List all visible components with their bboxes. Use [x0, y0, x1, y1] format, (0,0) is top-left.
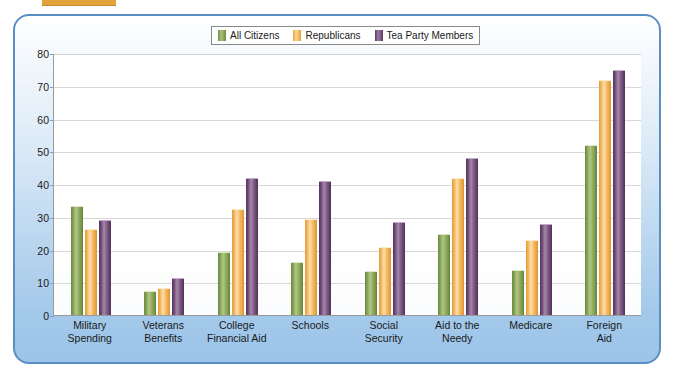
bar-tea-party-members[interactable]: [319, 181, 331, 315]
y-tick-label: 10: [37, 277, 49, 289]
bar-republicans[interactable]: [452, 178, 464, 315]
x-axis-label: CollegeFinancial Aid: [200, 319, 274, 344]
bar-republicans[interactable]: [305, 219, 317, 315]
y-tick-label: 20: [37, 245, 49, 257]
bar-group: [128, 54, 202, 315]
x-axis-label-line: Spending: [53, 332, 127, 345]
bar-republicans[interactable]: [379, 247, 391, 315]
x-axis-label: SocialSecurity: [347, 319, 421, 344]
x-axis-label-line: Schools: [274, 319, 348, 332]
y-tick-label: 80: [37, 48, 49, 60]
legend-item-all-citizens: All Citizens: [218, 30, 279, 41]
legend-swatch-purple-icon: [375, 30, 383, 41]
bar-all-citizens[interactable]: [365, 271, 377, 315]
y-tick-label: 50: [37, 146, 49, 158]
y-tick-label: 60: [37, 114, 49, 126]
x-axis-label: VeteransBenefits: [127, 319, 201, 344]
y-tick-mark: [50, 316, 54, 317]
bar-tea-party-members[interactable]: [99, 220, 111, 315]
bar-all-citizens[interactable]: [438, 234, 450, 315]
legend-label-all-citizens: All Citizens: [230, 31, 279, 41]
x-axis-label: ForeignAid: [568, 319, 642, 344]
bar-republicans[interactable]: [232, 209, 244, 315]
y-tick-label: 40: [37, 179, 49, 191]
bar-group: [569, 54, 643, 315]
legend-swatch-green-icon: [218, 30, 226, 41]
bars-layer: [54, 54, 641, 315]
x-axis-label: MilitarySpending: [53, 319, 127, 344]
bar-tea-party-members[interactable]: [466, 158, 478, 315]
x-axis-label-line: Veterans: [127, 319, 201, 332]
bar-tea-party-members[interactable]: [540, 224, 552, 315]
bar-tea-party-members[interactable]: [393, 222, 405, 315]
bar-all-citizens[interactable]: [218, 252, 230, 315]
x-axis-label-line: Needy: [421, 332, 495, 345]
bar-group: [275, 54, 349, 315]
bar-all-citizens[interactable]: [71, 206, 83, 315]
bar-group: [54, 54, 128, 315]
x-axis-label-line: Social: [347, 319, 421, 332]
x-axis-label-line: Military: [53, 319, 127, 332]
x-axis-label-line: Aid to the: [421, 319, 495, 332]
bar-tea-party-members[interactable]: [246, 178, 258, 315]
x-axis-label: Medicare: [494, 319, 568, 332]
bar-tea-party-members[interactable]: [172, 278, 184, 315]
y-tick-label: 30: [37, 212, 49, 224]
bar-group: [348, 54, 422, 315]
x-axis-label-line: Aid: [568, 332, 642, 345]
bar-group: [495, 54, 569, 315]
chart-legend: All Citizens Republicans Tea Party Membe…: [211, 26, 480, 45]
legend-label-tea-party-members: Tea Party Members: [387, 31, 474, 41]
bar-republicans[interactable]: [526, 240, 538, 315]
legend-swatch-orange-icon: [293, 30, 301, 41]
x-axis-label-line: Medicare: [494, 319, 568, 332]
bar-all-citizens[interactable]: [585, 145, 597, 315]
bar-all-citizens[interactable]: [512, 270, 524, 315]
gridline: [54, 54, 641, 55]
y-tick-label: 70: [37, 81, 49, 93]
bar-group: [422, 54, 496, 315]
bar-republicans[interactable]: [158, 288, 170, 315]
x-axis-label-line: Foreign: [568, 319, 642, 332]
bar-republicans[interactable]: [599, 80, 611, 315]
x-axis-label-line: College: [200, 319, 274, 332]
bar-republicans[interactable]: [85, 229, 97, 315]
legend-item-republicans: Republicans: [293, 30, 360, 41]
bar-all-citizens[interactable]: [144, 291, 156, 315]
legend-label-republicans: Republicans: [305, 31, 360, 41]
chart-figure-panel: All Citizens Republicans Tea Party Membe…: [13, 14, 661, 364]
bar-group: [201, 54, 275, 315]
legend-item-tea-party-members: Tea Party Members: [375, 30, 474, 41]
x-axis-category-labels: MilitarySpendingVeteransBenefitsCollegeF…: [53, 319, 641, 363]
y-tick-mark: [50, 54, 54, 55]
x-axis-label: Aid to theNeedy: [421, 319, 495, 344]
x-axis-label-line: Financial Aid: [200, 332, 274, 345]
x-axis-label-line: Security: [347, 332, 421, 345]
bar-all-citizens[interactable]: [291, 262, 303, 315]
y-tick-label: 0: [43, 310, 49, 322]
x-axis-label: Schools: [274, 319, 348, 332]
plot-area: 01020304050607080: [53, 54, 641, 316]
orange-accent-bar: [42, 0, 116, 6]
x-axis-label-line: Benefits: [127, 332, 201, 345]
bar-tea-party-members[interactable]: [613, 70, 625, 315]
